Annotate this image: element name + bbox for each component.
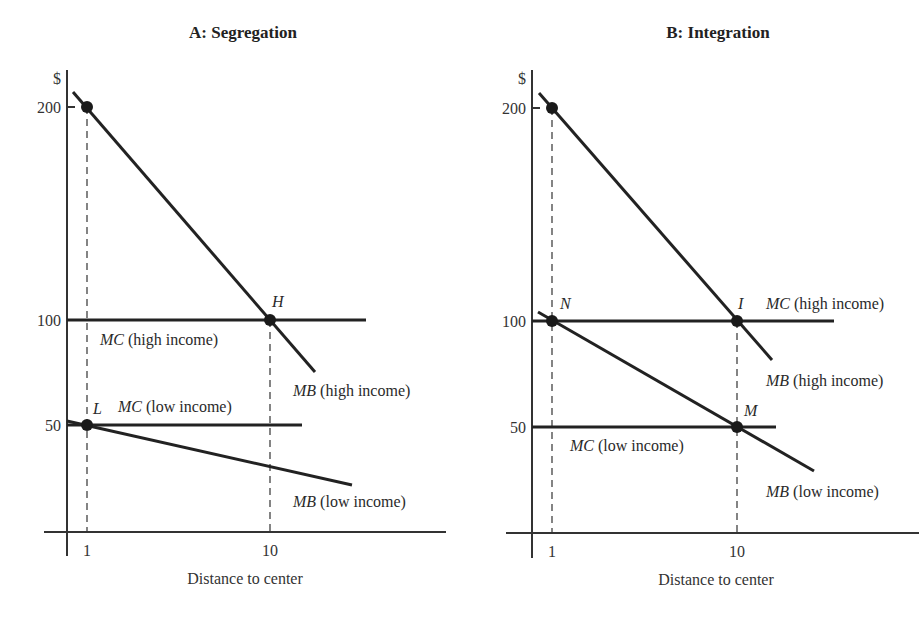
point-l-label: L [92, 400, 102, 417]
y-tick-label-200: 200 [37, 99, 61, 116]
x-tick-label-1: 1 [548, 543, 556, 560]
point-h-label: H [271, 293, 285, 310]
x-tick-label-10: 10 [729, 543, 745, 560]
panel-a: A: Segregation $ 200 100 50 1 10 Distanc… [37, 23, 446, 587]
mb-low-income-label: MB (low income) [765, 483, 879, 501]
point-n [546, 315, 558, 327]
mc-low-income-label: MC (low income) [117, 398, 232, 416]
mb-high-income-label: MB (high income) [765, 372, 883, 390]
x-axis-label: Distance to center [187, 570, 303, 587]
mc-high-income-label: MC (high income) [99, 331, 218, 349]
y-unit-label: $ [53, 70, 61, 87]
point-i [731, 315, 743, 327]
mb-high-income-line [73, 92, 315, 372]
mc-low-income-label: MC (low income) [569, 437, 684, 455]
mb-low-income-line [67, 421, 352, 485]
point-i-label: I [737, 295, 744, 312]
point-200 [546, 102, 558, 114]
x-tick-label-1: 1 [83, 542, 91, 559]
y-unit-label: $ [518, 70, 526, 87]
x-tick-label-10: 10 [262, 542, 278, 559]
point-n-label: N [559, 295, 572, 312]
point-200 [81, 101, 93, 113]
panel-a-title: A: Segregation [189, 23, 297, 42]
x-axis-label: Distance to center [658, 571, 774, 588]
panel-b: B: Integration $ 200 100 50 1 10 Distanc… [502, 23, 919, 588]
y-tick-label-100: 100 [37, 312, 61, 329]
y-tick-label-50: 50 [45, 417, 61, 434]
figure: A: Segregation $ 200 100 50 1 10 Distanc… [0, 0, 921, 618]
point-h [264, 314, 276, 326]
point-l [81, 419, 93, 431]
mc-high-income-label: MC (high income) [765, 295, 884, 313]
point-m [731, 421, 743, 433]
y-tick-label-100: 100 [502, 313, 526, 330]
mb-high-income-label: MB (high income) [292, 382, 410, 400]
panel-b-title: B: Integration [666, 23, 770, 42]
mb-low-income-label: MB (low income) [292, 493, 406, 511]
point-m-label: M [743, 402, 759, 419]
y-tick-label-50: 50 [510, 419, 526, 436]
y-tick-label-200: 200 [502, 100, 526, 117]
